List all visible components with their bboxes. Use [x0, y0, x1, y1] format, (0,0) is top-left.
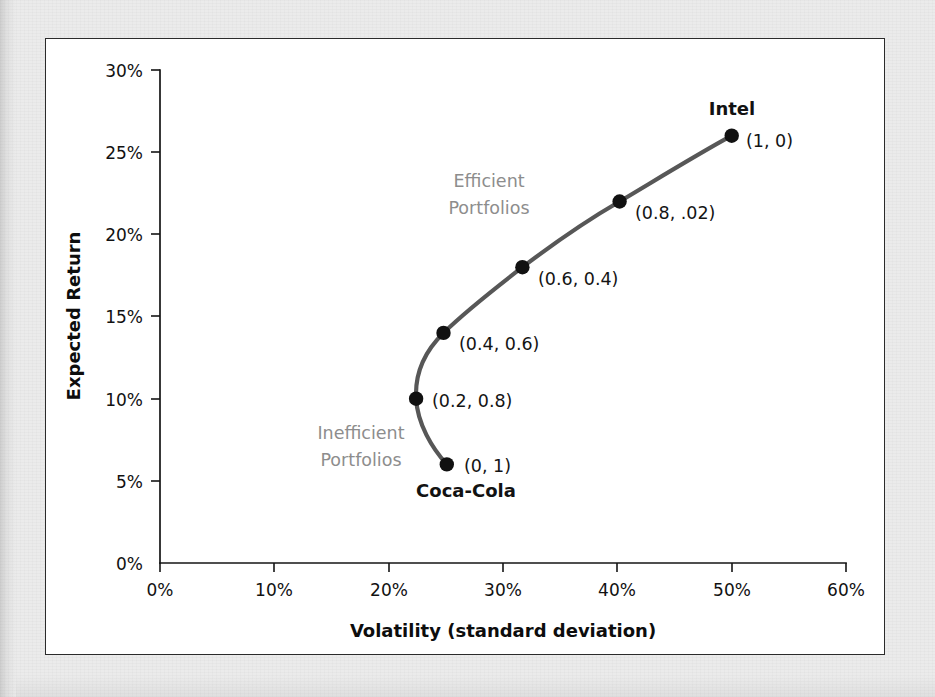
- inefficient-portfolios-label-line2: Portfolios: [320, 450, 401, 470]
- scanned-page: 30% 25% 20% 15% 10% 5% 0% 0% 10% 20% 30%…: [0, 0, 935, 697]
- inefficient-portfolios-label-line1: Inefficient: [317, 423, 404, 443]
- x-tick-label-50: 50%: [713, 580, 751, 600]
- cocacola-label: Coca-Cola: [416, 480, 516, 501]
- point-label-08-002: (0.8, .02): [635, 203, 715, 223]
- point-label-06-04: (0.6, 0.4): [538, 269, 618, 289]
- y-tick-label-25: 25%: [105, 143, 143, 163]
- y-tick-label-0: 0%: [116, 554, 143, 574]
- efficient-portfolios-label-line1: Efficient: [453, 171, 524, 191]
- y-tick-label-20: 20%: [105, 225, 143, 245]
- x-tick-label-60: 60%: [827, 580, 865, 600]
- data-point-06-04[interactable]: [515, 260, 529, 274]
- data-point-08-002[interactable]: [612, 194, 626, 208]
- efficient-portfolios-label-line2: Portfolios: [448, 198, 529, 218]
- point-label-0-1: (0, 1): [464, 456, 511, 476]
- data-point-02-08[interactable]: [409, 392, 423, 406]
- y-tick-label-30: 30%: [105, 61, 143, 81]
- efficient-frontier-chart: 30% 25% 20% 15% 10% 5% 0% 0% 10% 20% 30%…: [46, 39, 883, 653]
- x-tick-label-40: 40%: [598, 580, 636, 600]
- y-axis-title: Expected Return: [63, 232, 84, 401]
- x-tick-label-10: 10%: [255, 580, 293, 600]
- point-label-1-0: (1, 0): [746, 131, 793, 151]
- y-tick-label-5: 5%: [116, 472, 143, 492]
- x-tick-label-30: 30%: [484, 580, 522, 600]
- y-tick-label-10: 10%: [105, 390, 143, 410]
- figure-frame: 30% 25% 20% 15% 10% 5% 0% 0% 10% 20% 30%…: [45, 38, 885, 655]
- intel-label: Intel: [709, 98, 756, 119]
- y-tick-label-15: 15%: [105, 307, 143, 327]
- data-point-0-1[interactable]: [440, 457, 454, 471]
- data-point-1-0[interactable]: [725, 129, 739, 143]
- data-point-04-06[interactable]: [436, 326, 450, 340]
- point-label-02-08: (0.2, 0.8): [432, 391, 512, 411]
- x-axis-title: Volatility (standard deviation): [350, 620, 656, 641]
- page-margin-shadow: [0, 0, 16, 697]
- point-label-04-06: (0.4, 0.6): [459, 334, 539, 354]
- x-tick-label-20: 20%: [370, 580, 408, 600]
- x-tick-label-0: 0%: [147, 580, 174, 600]
